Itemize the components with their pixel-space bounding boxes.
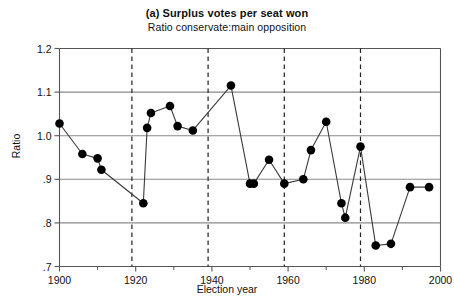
y-tick-label: 1.0 xyxy=(37,130,52,142)
data-point-marker xyxy=(299,175,308,184)
data-point-marker xyxy=(78,150,87,159)
data-point-marker xyxy=(337,199,346,208)
data-point-marker xyxy=(93,154,102,163)
y-tick-label: 1.1 xyxy=(37,86,52,98)
data-point-marker xyxy=(189,126,198,135)
data-point-marker xyxy=(406,183,415,192)
data-point-marker xyxy=(55,119,64,128)
y-tick-label: .8 xyxy=(43,217,52,229)
data-point-marker xyxy=(147,109,156,118)
data-point-marker xyxy=(139,199,148,208)
data-point-marker xyxy=(143,124,152,133)
plot-area: .7.8.91.01.11.2190019201940196019802000 xyxy=(0,0,454,301)
data-point-marker xyxy=(371,241,380,250)
data-point-marker xyxy=(97,165,106,174)
data-point-marker xyxy=(307,146,316,155)
data-point-marker xyxy=(356,142,365,151)
data-point-marker xyxy=(425,183,434,192)
data-point-marker xyxy=(280,179,289,188)
y-axis-label: Ratio xyxy=(10,116,22,176)
data-point-marker xyxy=(387,240,396,249)
series-line xyxy=(60,86,430,246)
chart-figure: (a) Surplus votes per seat won Ratio con… xyxy=(0,0,454,301)
data-point-marker xyxy=(341,213,350,222)
y-tick-label: .7 xyxy=(43,261,52,273)
data-point-marker xyxy=(227,81,236,90)
data-point-marker xyxy=(173,122,182,131)
data-point-marker xyxy=(322,117,331,126)
y-tick-label: 1.2 xyxy=(37,43,52,55)
data-point-marker xyxy=(250,179,259,188)
data-point-marker xyxy=(166,102,175,111)
y-tick-label: .9 xyxy=(43,173,52,185)
x-axis-label: Election year xyxy=(0,283,454,295)
data-point-marker xyxy=(265,155,274,164)
